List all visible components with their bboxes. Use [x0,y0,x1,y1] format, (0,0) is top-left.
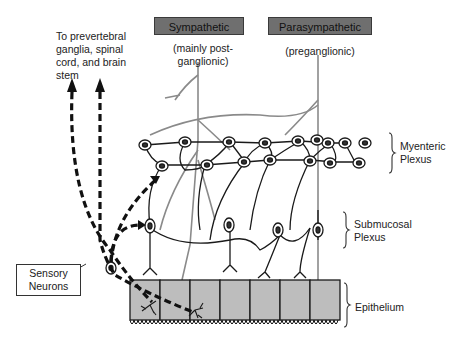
autonomic-fibers [150,55,318,290]
parasympathetic-header: Parasympathetic [268,17,372,35]
sympathetic-header: Sympathetic [154,17,244,35]
myenteric-network [145,141,355,240]
myenteric-plexus-label: Myenteric Plexus [400,140,446,166]
submucosal-plexus-label: Submucosal Plexus [354,218,412,244]
parasympathetic-subtitle: (preganglionic) [275,45,365,58]
sensory-neurons-callout: Sensory Neurons [16,264,81,296]
cns-destination-label: To prevertebral ganglia, spinal cord, an… [56,30,126,82]
epithelium-label: Epithelium [355,301,404,314]
sympathetic-subtitle: (mainly post- ganglionic) [163,42,243,68]
epithelium-cells [130,280,340,320]
arrowheads [67,78,160,230]
